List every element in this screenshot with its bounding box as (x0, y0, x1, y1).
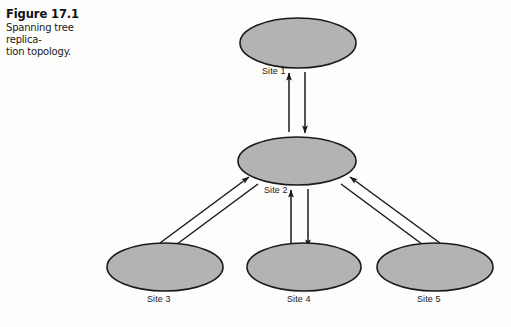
arrow-site5-to-site2 (350, 177, 440, 243)
link-site2-site4 (291, 189, 308, 247)
arrow-site2-to-site3 (169, 184, 258, 250)
node-site3[interactable] (107, 243, 223, 291)
node-site2[interactable] (238, 137, 356, 185)
node-label-site5: Site 5 (417, 294, 441, 304)
node-site5[interactable] (377, 243, 493, 291)
node-label-site2: Site 2 (264, 185, 288, 195)
link-site2-site5 (341, 177, 440, 250)
arrow-site2-to-site5 (341, 184, 430, 250)
node-label-site3: Site 3 (147, 294, 171, 304)
node-site1[interactable] (240, 18, 356, 68)
figure-page: Figure 17.1 Spanning tree replica- tion … (0, 0, 511, 327)
link-site2-site3 (160, 177, 258, 250)
node-label-site4: Site 4 (287, 294, 311, 304)
topology-diagram (0, 0, 511, 327)
node-site4[interactable] (247, 243, 361, 291)
node-label-site1: Site 1 (262, 66, 286, 76)
link-site1-site2 (289, 72, 305, 133)
arrow-site3-to-site2 (160, 177, 249, 243)
